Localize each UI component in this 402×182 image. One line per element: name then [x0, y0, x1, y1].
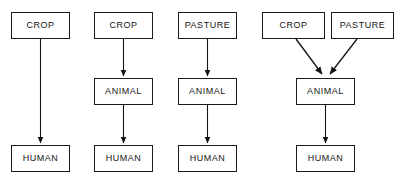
node-label: PASTURE — [340, 21, 386, 30]
node-human-panel1: HUMAN — [11, 145, 70, 172]
node-label: CROP — [109, 21, 137, 30]
node-crop-panel1: CROP — [11, 12, 70, 39]
node-label: CROP — [279, 21, 307, 30]
node-pasture-panel4: PASTURE — [331, 12, 394, 39]
node-human-panel2: HUMAN — [94, 145, 153, 172]
arrow-crop-to-animal-diagonal — [296, 39, 322, 74]
node-human-panel3: HUMAN — [178, 145, 237, 172]
node-label: CROP — [26, 21, 54, 30]
node-animal-panel2: ANIMAL — [94, 78, 153, 105]
arrow-pasture-to-animal-diagonal — [330, 39, 357, 74]
node-human-panel4: HUMAN — [296, 145, 355, 172]
node-label: HUMAN — [23, 154, 59, 163]
diagram-canvas: CROP HUMAN CROP ANIMAL HUMAN PASTURE ANI… — [0, 0, 402, 182]
node-crop-panel4: CROP — [262, 12, 325, 39]
node-label: HUMAN — [106, 154, 142, 163]
node-label: ANIMAL — [105, 87, 142, 96]
node-label: HUMAN — [190, 154, 226, 163]
node-label: ANIMAL — [189, 87, 226, 96]
node-crop-panel2: CROP — [94, 12, 153, 39]
node-animal-panel3: ANIMAL — [178, 78, 237, 105]
node-pasture-panel3: PASTURE — [178, 12, 237, 39]
node-label: ANIMAL — [307, 87, 344, 96]
node-animal-panel4: ANIMAL — [296, 78, 355, 105]
node-label: PASTURE — [185, 21, 231, 30]
node-label: HUMAN — [308, 154, 344, 163]
